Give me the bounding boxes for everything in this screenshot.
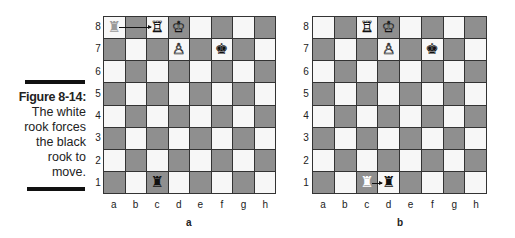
square-c7	[147, 39, 168, 60]
square-b4	[126, 106, 147, 127]
square-d5	[378, 83, 399, 104]
square-d7: ♙	[169, 39, 190, 60]
white-rook-icon: ♖	[360, 20, 373, 35]
square-e3	[400, 128, 421, 149]
rank-label: 1	[93, 177, 103, 188]
square-c4	[147, 106, 168, 127]
square-f7: ♚	[212, 39, 233, 60]
square-a3	[313, 128, 334, 149]
rank-label: 8	[93, 21, 103, 32]
chessboard-a: ♜♖♔♙♚♜	[103, 16, 276, 194]
square-h3	[465, 128, 486, 149]
square-g6	[444, 61, 465, 82]
file-label: f	[211, 199, 232, 210]
square-c2	[357, 150, 378, 171]
caption-line: move.	[0, 165, 86, 180]
square-c6	[147, 61, 168, 82]
square-h1	[465, 172, 486, 193]
file-label: e	[400, 199, 421, 210]
square-a6	[104, 61, 125, 82]
square-a5	[313, 83, 334, 104]
square-h5	[465, 83, 486, 104]
square-b7	[126, 39, 147, 60]
square-d1	[169, 172, 190, 193]
square-e8	[400, 17, 421, 38]
black-king-icon: ♚	[215, 42, 228, 57]
square-f3	[212, 128, 233, 149]
rank-label: 1	[301, 177, 311, 188]
rank-label: 4	[301, 110, 311, 121]
square-b5	[126, 83, 147, 104]
square-d4	[169, 106, 190, 127]
square-g7	[444, 39, 465, 60]
square-a7	[313, 39, 334, 60]
square-f4	[422, 106, 443, 127]
figure-caption: Figure 8-14: The white rook forces the b…	[0, 90, 86, 180]
square-c5	[357, 83, 378, 104]
square-b3	[335, 128, 356, 149]
file-label: h	[255, 199, 276, 210]
square-f4	[212, 106, 233, 127]
square-f2	[422, 150, 443, 171]
square-e2	[190, 150, 211, 171]
square-f2	[212, 150, 233, 171]
move-arrow-icon	[119, 27, 151, 28]
square-h8	[465, 17, 486, 38]
square-e1	[190, 172, 211, 193]
square-c1: ♜	[147, 172, 168, 193]
square-h2	[465, 150, 486, 171]
square-h8	[255, 17, 276, 38]
board-label: a	[186, 217, 192, 228]
rank-label: 8	[301, 21, 311, 32]
caption-line: The white	[0, 105, 86, 120]
square-g7	[233, 39, 254, 60]
square-d6	[169, 61, 190, 82]
file-label: c	[356, 199, 377, 210]
file-label: c	[147, 199, 168, 210]
white-pawn-icon: ♙	[172, 42, 185, 57]
square-c2	[147, 150, 168, 171]
square-b2	[335, 150, 356, 171]
board-label: b	[397, 217, 403, 228]
white-king-icon: ♔	[172, 20, 185, 35]
square-e7	[400, 39, 421, 60]
file-label: d	[378, 199, 399, 210]
file-label: a	[103, 199, 124, 210]
square-e5	[400, 83, 421, 104]
square-b3	[126, 128, 147, 149]
square-a2	[313, 150, 334, 171]
square-d5	[169, 83, 190, 104]
square-h6	[255, 61, 276, 82]
square-c7	[357, 39, 378, 60]
square-a4	[313, 106, 334, 127]
square-b1	[126, 172, 147, 193]
square-h2	[255, 150, 276, 171]
square-g8	[444, 17, 465, 38]
square-a7	[104, 39, 125, 60]
square-f8	[212, 17, 233, 38]
square-a5	[104, 83, 125, 104]
square-g3	[444, 128, 465, 149]
square-a3	[104, 128, 125, 149]
square-g5	[233, 83, 254, 104]
square-e6	[400, 61, 421, 82]
square-d7: ♙	[378, 39, 399, 60]
caption-line: rook forces	[0, 120, 86, 135]
square-a1	[313, 172, 334, 193]
square-a2	[104, 150, 125, 171]
square-b6	[335, 61, 356, 82]
file-label: d	[168, 199, 189, 210]
square-d2	[378, 150, 399, 171]
square-h6	[465, 61, 486, 82]
rank-label: 5	[301, 88, 311, 99]
square-b6	[126, 61, 147, 82]
square-c3	[357, 128, 378, 149]
square-e4	[400, 106, 421, 127]
square-g5	[444, 83, 465, 104]
square-h5	[255, 83, 276, 104]
square-e1	[400, 172, 421, 193]
rank-label: 7	[93, 43, 103, 54]
square-d6	[378, 61, 399, 82]
square-f7: ♚	[422, 39, 443, 60]
square-b1	[335, 172, 356, 193]
